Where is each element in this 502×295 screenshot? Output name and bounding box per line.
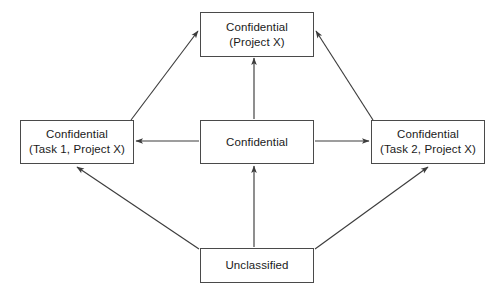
node-confidential[interactable]: Confidential — [200, 120, 314, 164]
node-label-line1: Unclassified — [225, 258, 288, 273]
node-label-line1: Confidential — [226, 20, 288, 35]
node-unclassified[interactable]: Unclassified — [200, 248, 314, 283]
node-label-line2: (Task 2, Project X) — [380, 142, 476, 157]
edge-bottom-to-left — [77, 167, 199, 249]
edge-bottom-to-right — [315, 167, 428, 249]
edge-right-to-top — [316, 31, 373, 120]
diagram-canvas: Confidential (Project X) Confidential (T… — [0, 0, 502, 295]
node-confidential-project-x[interactable]: Confidential (Project X) — [200, 12, 314, 57]
node-confidential-task1-project-x[interactable]: Confidential (Task 1, Project X) — [20, 120, 134, 164]
node-confidential-task2-project-x[interactable]: Confidential (Task 2, Project X) — [371, 120, 485, 164]
node-label-line2: (Task 1, Project X) — [29, 142, 125, 157]
node-label-line2: (Project X) — [229, 35, 284, 50]
node-label-line1: Confidential — [226, 135, 288, 150]
node-label-line1: Confidential — [46, 127, 108, 142]
node-label-line1: Confidential — [397, 127, 459, 142]
edge-left-to-top — [131, 31, 198, 120]
